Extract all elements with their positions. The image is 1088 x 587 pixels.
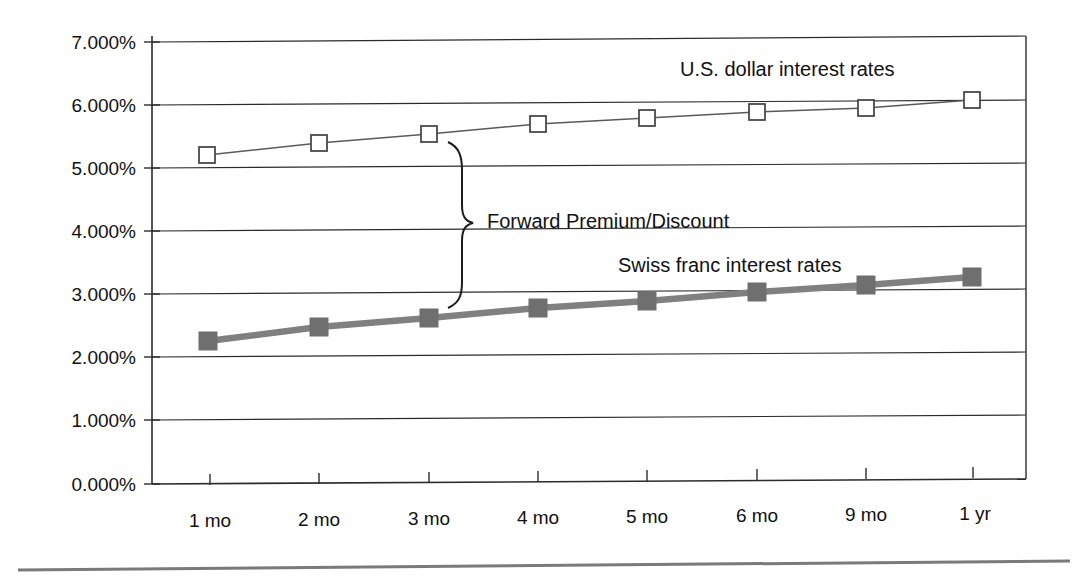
x-tick-label-3mo: 3 mo [408, 508, 450, 529]
y-tick-label-6: 6.000% [72, 95, 137, 116]
y-tick-label-2: 2.000% [72, 347, 137, 368]
y-tick-label-1: 1.000% [72, 410, 137, 431]
x-tick-label-4mo: 4 mo [517, 507, 559, 528]
usd-point-1yr [964, 92, 980, 108]
chart-figure: 7.000% 6.000% 5.000% 4.000% 3.000% 2.000… [0, 0, 1088, 587]
usd-point-9mo [858, 100, 874, 116]
chf-point-2mo [310, 318, 328, 336]
y-tick-label-4: 4.000% [72, 221, 137, 242]
chf-point-5mo [638, 292, 656, 310]
usd-point-4mo [530, 116, 546, 132]
y-tick-label-0: 0.000% [72, 474, 137, 495]
x-tick-label-1mo: 1 mo [189, 510, 231, 531]
chf-point-1mo [199, 332, 217, 350]
usd-point-1mo [199, 147, 215, 163]
y-tick-label-5: 5.000% [72, 158, 137, 179]
chf-point-1yr [963, 268, 981, 286]
y-tick-label-3: 3.000% [72, 284, 137, 305]
chf-point-6mo [748, 283, 766, 301]
x-tick-label-1yr: 1 yr [959, 503, 991, 524]
usd-point-2mo [311, 135, 327, 151]
x-tick-label-9mo: 9 mo [845, 504, 887, 525]
usd-point-3mo [421, 126, 437, 142]
usd-point-6mo [749, 104, 765, 120]
annotation-chf-series-label: Swiss franc interest rates [618, 254, 841, 276]
chf-point-4mo [529, 299, 547, 317]
annotation-usd-series-label: U.S. dollar interest rates [680, 58, 895, 80]
y-tick-label-7: 7.000% [72, 32, 137, 53]
x-tick-label-6mo: 6 mo [736, 505, 778, 526]
usd-point-5mo [639, 110, 655, 126]
interest-rate-line-chart: 7.000% 6.000% 5.000% 4.000% 3.000% 2.000… [0, 0, 1088, 587]
chf-point-9mo [857, 276, 875, 294]
annotation-forward-premium-discount: Forward Premium/Discount [487, 210, 730, 232]
chf-point-3mo [420, 309, 438, 327]
x-tick-label-5mo: 5 mo [626, 506, 668, 527]
x-tick-label-2mo: 2 mo [298, 509, 340, 530]
